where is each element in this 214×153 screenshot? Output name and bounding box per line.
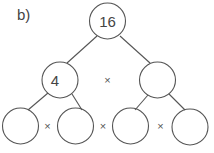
factor-tree: 16 4 × × × × (0, 0, 214, 153)
edge-root-left (67, 36, 97, 63)
node-rl[interactable] (113, 108, 149, 144)
node-lr[interactable] (58, 108, 94, 144)
edge-root-right (120, 36, 150, 63)
multiply-operator: × (104, 74, 110, 86)
factor-tree-diagram: b) 16 4 × × × × (0, 0, 214, 153)
node-ll[interactable] (3, 108, 39, 144)
edge-left-ll (28, 93, 48, 110)
node-right (140, 62, 176, 98)
node-root-value: 16 (99, 13, 116, 30)
node-rr[interactable] (172, 109, 208, 145)
edge-right-rr (169, 94, 185, 110)
multiply-operator: × (44, 120, 50, 132)
node-left (42, 62, 78, 98)
node-left-value: 4 (51, 72, 59, 89)
multiply-operator: × (100, 120, 106, 132)
multiply-operator: × (157, 120, 163, 132)
edge-right-rl (135, 95, 148, 110)
